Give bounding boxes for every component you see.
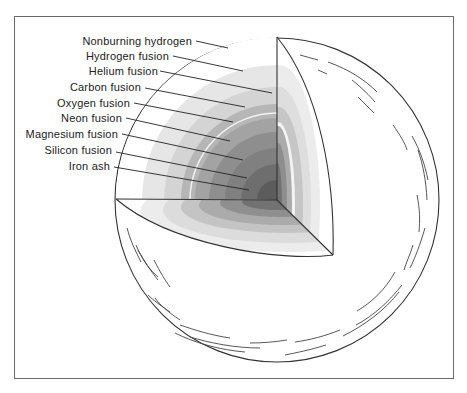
label-hydrogen-fusion: Hydrogen fusion [86, 50, 169, 62]
label-magnesium-fusion: Magnesium fusion [26, 128, 118, 140]
label-carbon-fusion: Carbon fusion [70, 81, 141, 93]
label-neon-fusion: Neon fusion [61, 112, 122, 124]
label-nonburning-hydrogen: Nonburning hydrogen [82, 35, 192, 47]
star-cutaway-diagram [0, 0, 467, 393]
label-iron-ash: Iron ash [69, 160, 110, 172]
label-silicon-fusion: Silicon fusion [44, 144, 112, 156]
label-helium-fusion: Helium fusion [89, 65, 158, 77]
label-oxygen-fusion: Oxygen fusion [57, 97, 130, 109]
